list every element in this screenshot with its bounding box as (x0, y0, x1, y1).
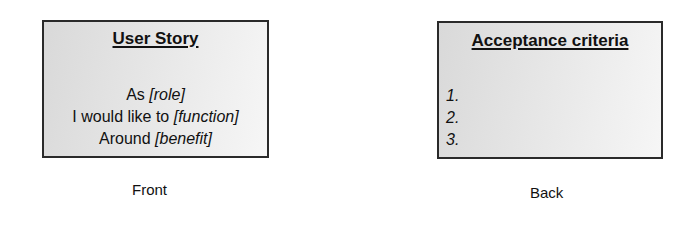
role-placeholder: [role] (149, 86, 185, 103)
card-title: User Story (44, 29, 267, 49)
front-caption: Front (132, 181, 167, 198)
story-line-role: As [role] (44, 84, 267, 106)
back-caption: Back (530, 184, 563, 201)
benefit-placeholder: [benefit] (155, 130, 212, 147)
card-title: Acceptance criteria (439, 31, 661, 51)
line-text: I would like to (72, 108, 173, 125)
criteria-item: 3. (446, 129, 459, 151)
user-story-card-front: User Story As [role] I would like to [fu… (42, 20, 269, 158)
user-story-card-back: Acceptance criteria 1. 2. 3. (437, 21, 663, 159)
story-template: As [role] I would like to [function] Aro… (44, 84, 267, 150)
criteria-item: 2. (446, 107, 459, 129)
story-line-benefit: Around [benefit] (44, 128, 267, 150)
line-text: Around (99, 130, 155, 147)
function-placeholder: [function] (174, 108, 239, 125)
line-text: As (126, 86, 149, 103)
story-line-function: I would like to [function] (44, 106, 267, 128)
acceptance-criteria-list: 1. 2. 3. (446, 85, 459, 151)
criteria-item: 1. (446, 85, 459, 107)
